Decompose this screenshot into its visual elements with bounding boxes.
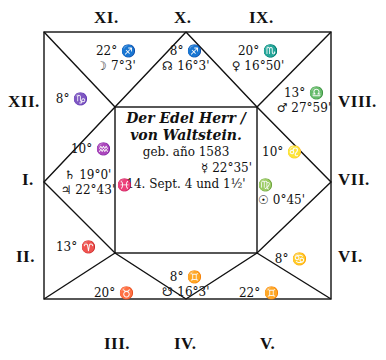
house-ii-cusp: 13° ♈ — [54, 240, 98, 255]
house-xi-planet: ☽ 7°3' — [86, 59, 146, 74]
house-viii: 13° ♎ ♂ 27°59' — [276, 86, 332, 116]
house-vi-cusp: 8° ♋ — [268, 252, 314, 267]
house-iii: 20° ♉ — [92, 286, 136, 301]
house-label-xii: XII. — [8, 92, 40, 112]
house-label-viii: VIII. — [338, 92, 377, 112]
house-vii: ♍ ☉ 0°45' — [258, 178, 312, 208]
house-label-v: V. — [260, 334, 275, 354]
house-label-x: X. — [174, 8, 192, 28]
house-vii-cusp: 10° ♌ — [262, 145, 302, 160]
house-vii-cusp-box: 10° ♌ — [262, 145, 302, 160]
house-viii-planet: ♂ 27°59' — [276, 101, 332, 116]
house-xi-cusp: 22° ♐ — [86, 44, 146, 59]
house-v: 22° ♊ — [236, 286, 282, 301]
house-ix-planet: ♀ 16°50' — [226, 59, 290, 74]
house-iv: 8° ♊ ☋ 16°3' — [158, 270, 214, 300]
house-label-ix: IX. — [249, 8, 274, 28]
house-vii-sign: ♍ — [258, 178, 312, 193]
house-viii-cusp: 13° ♎ — [276, 86, 332, 101]
title-line-4: 14. Sept. 4 und 1½' — [116, 176, 256, 192]
mercury-position: ☿ 22°35' — [116, 160, 256, 176]
house-iv-planet: ☋ 16°3' — [158, 285, 214, 300]
title-line-3: geb. año 1583 — [116, 144, 256, 160]
title-line-2: von Waltstein. — [116, 127, 256, 144]
house-label-i: I. — [22, 170, 34, 190]
house-ii: 13° ♈ — [54, 240, 98, 255]
house-label-iv: IV. — [174, 334, 196, 354]
house-iii-cusp: 20° ♉ — [92, 286, 136, 301]
house-label-vi: VI. — [338, 247, 363, 267]
house-x-cusp: 8° ♐ — [156, 44, 216, 59]
house-x-planet: ☊ 16°3' — [156, 59, 216, 74]
house-ix-cusp: 20° ♏ — [226, 44, 290, 59]
house-xii-cusp: 8° ♑ — [52, 92, 92, 107]
nativity-title: Der Edel Herr / von Waltstein. geb. año … — [116, 110, 256, 192]
house-v-cusp: 22° ♊ — [236, 286, 282, 301]
house-i: ♄ 19°0' ♃ 22°43' — [60, 168, 116, 198]
house-vi: 8° ♋ — [268, 252, 314, 267]
house-xii: 8° ♑ — [52, 92, 92, 107]
house-xi: 22° ♐ ☽ 7°3' — [86, 44, 146, 74]
house-i-cusp-box: 10° ♒ — [68, 142, 114, 157]
house-i-cusp: 10° ♒ — [68, 142, 114, 157]
house-vii-planet: ☉ 0°45' — [258, 193, 312, 208]
house-label-vii: VII. — [338, 170, 370, 190]
title-line-1: Der Edel Herr / — [116, 110, 256, 127]
house-iv-cusp: 8° ♊ — [158, 270, 214, 285]
house-x: 8° ♐ ☊ 16°3' — [156, 44, 216, 74]
house-i-planet2: ♃ 22°43' — [60, 183, 116, 198]
house-label-iii: III. — [104, 334, 130, 354]
pisces-mark: ♓ — [117, 178, 131, 193]
house-label-ii: II. — [16, 247, 35, 267]
house-i-planet: ♄ 19°0' — [60, 168, 116, 183]
house-label-xi: XI. — [94, 8, 119, 28]
house-ix: 20° ♏ ♀ 16°50' — [226, 44, 290, 74]
